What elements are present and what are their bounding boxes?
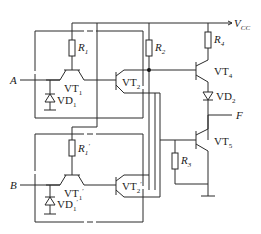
gate-a-box [35, 31, 143, 118]
vd1-label: VD1 [57, 94, 77, 109]
diode-vd1-prime [44, 185, 56, 214]
resistor-r1-prime [69, 140, 75, 156]
vt5-label: VT5 [214, 135, 233, 150]
resistor-r4 [205, 32, 211, 48]
vd2-label: VD2 [216, 90, 236, 105]
vcc-label: VCC [234, 17, 250, 32]
r1p-label: R1′ [77, 142, 90, 157]
input-a-label: A [9, 74, 17, 86]
vt2p-label: VT2′ [122, 180, 142, 195]
input-b-label: B [10, 179, 17, 191]
diode-vd1 [44, 80, 56, 110]
output-f-label: F [235, 109, 243, 121]
r4-label: R4 [213, 33, 225, 48]
r1-label: R1 [77, 41, 88, 56]
resistor-r1 [69, 40, 75, 56]
vt2-label: VT2 [122, 76, 141, 91]
vd1p-label: VD1′ [57, 198, 78, 213]
transistor-vt4 [196, 60, 208, 92]
resistor-r2 [146, 40, 152, 56]
transistor-vt1 [46, 70, 110, 80]
transistor-vt1-prime [46, 175, 110, 185]
resistor-r3 [172, 153, 178, 169]
circuit-diagram: VCC R1 [0, 0, 261, 234]
r2-label: R2 [154, 41, 166, 56]
r3-label: R3 [180, 154, 192, 169]
vt4-label: VT4 [214, 65, 233, 80]
